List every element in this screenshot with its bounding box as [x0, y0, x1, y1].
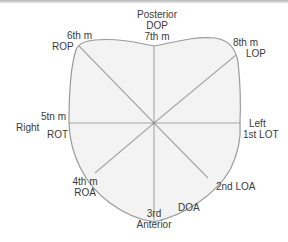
label-dop-text: DOP	[132, 20, 182, 31]
label-8th-month-text: 8th m	[233, 37, 266, 48]
label-rop-text: ROP	[52, 41, 92, 52]
label-lot: Left 1st LOT	[243, 118, 279, 140]
label-7th-month-text: 7th m	[132, 31, 182, 42]
label-roa-text: ROA	[68, 187, 102, 198]
label-5th-month: 5tn m	[41, 111, 66, 122]
label-anterior: 3rd Anterior	[126, 208, 182, 230]
label-right-side: Right	[16, 122, 39, 133]
label-left-side-text: Left	[243, 118, 279, 129]
label-lot-text: 1st LOT	[243, 129, 279, 140]
label-4th-month-text: 4th m	[68, 176, 102, 187]
label-loa: 2nd LOA	[216, 181, 255, 192]
label-3rd-text: 3rd	[126, 208, 182, 219]
label-anterior-text: Anterior	[126, 219, 182, 230]
label-posterior: Posterior DOP 7th m	[132, 9, 182, 42]
label-lop-text: LOP	[233, 48, 266, 59]
label-6th-month-text: 6th m	[52, 30, 92, 41]
label-roa: 4th m ROA	[68, 176, 102, 198]
label-rop: 6th m ROP	[52, 30, 92, 52]
center-point	[153, 122, 156, 125]
label-lop: 8th m LOP	[233, 37, 266, 59]
label-rot: ROT	[47, 129, 68, 140]
label-posterior-text: Posterior	[132, 9, 182, 20]
